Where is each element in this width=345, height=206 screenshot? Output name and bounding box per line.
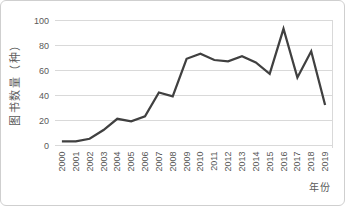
y-tick-label: 80 xyxy=(39,41,49,51)
x-tick-label: 2015 xyxy=(265,152,275,172)
x-tick-label: 2012 xyxy=(223,152,233,172)
x-tick-label: 2006 xyxy=(140,152,150,172)
x-tick-label: 2016 xyxy=(279,152,289,172)
x-tick-label: 2005 xyxy=(126,152,136,172)
y-axis-title: 图书数量（种） xyxy=(6,38,22,126)
data-line-series xyxy=(62,29,325,142)
x-tick-label: 2019 xyxy=(320,152,330,172)
x-tick-label: 2009 xyxy=(182,152,192,172)
x-tick-label: 2014 xyxy=(251,152,261,172)
line-chart-svg: 0204060801002000200120022003200420052006… xyxy=(1,1,345,206)
chart-container: 0204060801002000200120022003200420052006… xyxy=(0,0,345,206)
x-tick-label: 2000 xyxy=(57,152,67,172)
x-tick-label: 2001 xyxy=(71,152,81,172)
x-tick-label: 2018 xyxy=(306,152,316,172)
x-tick-label: 2007 xyxy=(154,152,164,172)
x-axis-title: 年份 xyxy=(309,179,331,194)
x-tick-label: 2013 xyxy=(237,152,247,172)
x-tick-label: 2011 xyxy=(209,152,219,171)
y-tick-label: 0 xyxy=(44,141,49,151)
y-tick-label: 60 xyxy=(39,66,49,76)
y-tick-label: 40 xyxy=(39,91,49,101)
x-tick-label: 2008 xyxy=(168,152,178,172)
x-tick-label: 2010 xyxy=(195,152,205,172)
y-tick-label: 20 xyxy=(39,116,49,126)
x-tick-label: 2004 xyxy=(112,152,122,172)
y-tick-label: 100 xyxy=(34,16,49,26)
x-tick-label: 2003 xyxy=(99,152,109,172)
x-tick-label: 2002 xyxy=(85,152,95,172)
x-tick-label: 2017 xyxy=(292,152,302,172)
